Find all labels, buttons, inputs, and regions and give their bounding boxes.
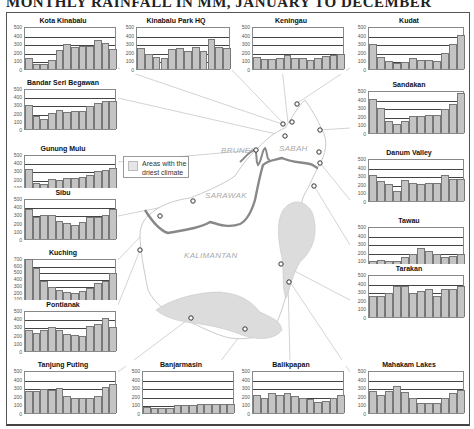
- bar-jul: [71, 47, 79, 69]
- bar-mar: [158, 408, 166, 413]
- y-tick-label: 500: [126, 368, 140, 374]
- bar-aug: [79, 336, 87, 351]
- bar-mar: [40, 215, 48, 239]
- y-tick-label: 300: [352, 385, 366, 391]
- y-tick-label: 400: [126, 377, 140, 383]
- bar-apr: [48, 327, 56, 351]
- y-tick-label: 0: [352, 315, 366, 321]
- y-tick-label: 300: [236, 41, 250, 47]
- bar-nov: [330, 55, 338, 69]
- y-tick-label: 300: [8, 283, 22, 289]
- bar-jun: [291, 58, 299, 69]
- bar-dec: [457, 390, 465, 413]
- y-tick-label: 400: [8, 276, 22, 282]
- y-tick-label: 0: [352, 131, 366, 137]
- y-tick-label: 500: [352, 224, 366, 230]
- bar-jun: [63, 334, 71, 351]
- bar-aug: [79, 46, 87, 69]
- bar-aug: [425, 403, 433, 413]
- bar-jan: [137, 48, 145, 70]
- y-tick-label: 700: [8, 256, 22, 262]
- bar-nov: [102, 318, 110, 351]
- bar-sep: [433, 183, 441, 201]
- gridline: [369, 37, 463, 38]
- bar-jul: [71, 225, 79, 239]
- bar-apr: [48, 390, 56, 413]
- gridline: [369, 245, 463, 246]
- bar-jun: [63, 223, 71, 239]
- bar-dec: [109, 327, 117, 351]
- y-tick-label: 500: [8, 368, 22, 374]
- y-tick-label: 500: [236, 368, 250, 374]
- bar-feb: [33, 64, 41, 69]
- bar-jun: [409, 398, 417, 413]
- y-tick-label: 100: [352, 306, 366, 312]
- bar-mar: [153, 57, 161, 69]
- plot-area: [24, 259, 116, 306]
- bar-jan: [253, 395, 261, 413]
- bar-aug: [425, 183, 433, 201]
- y-tick-label: 100: [236, 402, 250, 408]
- bar-feb: [33, 116, 41, 129]
- bar-jun: [409, 293, 417, 317]
- bar-sep: [200, 51, 208, 69]
- y-tick-label: 500: [352, 24, 366, 30]
- bar-jul: [299, 398, 307, 413]
- y-tick-label: 500: [120, 24, 134, 30]
- bar-sep: [86, 398, 94, 413]
- y-tick-label: 500: [8, 308, 22, 314]
- y-tick-label: 200: [236, 394, 250, 400]
- y-tick-label: 200: [8, 394, 22, 400]
- y-tick-label: 300: [352, 289, 366, 295]
- bar-oct: [94, 396, 102, 413]
- plot-area: [136, 27, 230, 70]
- y-tick-label: 300: [8, 41, 22, 47]
- bar-apr: [48, 215, 56, 239]
- bar-jun: [63, 396, 71, 413]
- y-tick-label: 0: [352, 199, 366, 205]
- y-tick-label: 0: [120, 67, 134, 73]
- gridline: [253, 37, 343, 38]
- bar-aug: [425, 289, 433, 317]
- chart-banjarmasin: Banjarmasin5004003002001000: [126, 360, 236, 418]
- bar-apr: [393, 63, 401, 69]
- map-label-sabah: SABAH: [279, 144, 308, 153]
- y-tick-label: 300: [120, 41, 134, 47]
- chart-title: Tawau: [352, 216, 466, 225]
- bar-dec: [109, 384, 117, 413]
- chart-keningau: Keningau5004003002001000: [236, 16, 346, 74]
- gridline: [253, 381, 343, 382]
- y-tick-label: 500: [352, 368, 366, 374]
- bar-dec: [109, 49, 117, 69]
- bar-jan: [25, 259, 33, 305]
- bar-oct: [441, 109, 449, 133]
- bar-sep: [86, 46, 94, 69]
- y-tick-label: 0: [126, 411, 140, 417]
- gridline: [369, 389, 463, 390]
- bar-may: [174, 405, 182, 413]
- bar-sep: [433, 403, 441, 413]
- y-tick-label: 200: [8, 221, 22, 227]
- y-tick-label: 500: [8, 24, 22, 30]
- y-tick-label: 0: [236, 411, 250, 417]
- bar-oct: [94, 217, 102, 239]
- y-tick-label: 300: [8, 212, 22, 218]
- map-legend: Areas with the driest climate: [123, 156, 189, 178]
- chart-tanjung-puting: Tanjung Puting5004003002001000: [8, 360, 118, 418]
- chart-title: Kuching: [8, 248, 118, 257]
- plot-area: [24, 311, 116, 352]
- bar-aug: [425, 60, 433, 69]
- bar-jul: [189, 405, 197, 413]
- chart-title: Mahakam Lakes: [352, 360, 466, 369]
- gridline: [369, 285, 463, 286]
- y-tick-label: 400: [8, 94, 22, 100]
- bar-mar: [268, 59, 276, 69]
- y-tick-label: 200: [352, 394, 366, 400]
- bar-feb: [33, 391, 41, 413]
- bar-feb: [261, 59, 269, 69]
- gridline: [25, 208, 115, 209]
- chart-balikpapan: Balikpapan5004003002001000: [236, 360, 346, 418]
- bar-oct: [441, 398, 449, 413]
- bar-apr: [393, 286, 401, 317]
- bar-oct: [441, 289, 449, 317]
